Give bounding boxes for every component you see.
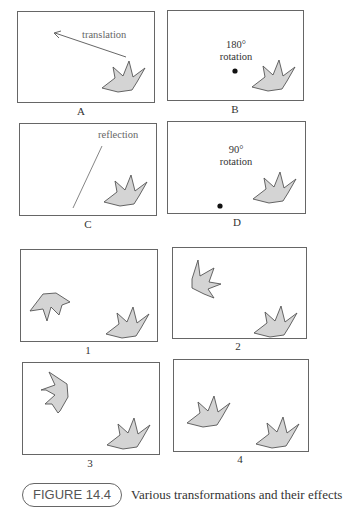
panel-a-frame <box>18 12 155 103</box>
original-shape <box>104 175 147 206</box>
transformations-figure: translation A 180° rotation B reflection… <box>0 0 360 519</box>
original-shape <box>102 61 145 92</box>
original-shape <box>253 172 296 203</box>
original-shape <box>254 306 297 337</box>
translated-shape <box>187 396 230 427</box>
panel-2-label: 2 <box>235 340 241 352</box>
original-shape <box>252 60 295 91</box>
translation-label: translation <box>82 29 127 40</box>
reflection-line <box>73 146 102 208</box>
original-shape <box>106 307 149 338</box>
transformed-shape <box>192 260 221 298</box>
figure-caption: FIGURE 14.4 Various transformations and … <box>22 483 342 507</box>
rotation-center-dot <box>232 68 237 73</box>
panel-3: 3 <box>23 363 160 470</box>
rotation-label: rotation <box>220 51 253 62</box>
panel-4: 4 <box>174 360 309 466</box>
transformed-shape <box>30 293 70 321</box>
panel-a: translation A <box>18 12 155 118</box>
panel-3-label: 3 <box>87 457 93 469</box>
panel-1: 1 <box>21 250 158 357</box>
panel-c: reflection C <box>20 124 157 231</box>
rotation-angle-label: 180° <box>226 39 246 50</box>
reflection-label: reflection <box>98 129 139 140</box>
panel-c-label: C <box>84 218 91 230</box>
panel-a-label: A <box>77 105 85 117</box>
transformed-shape <box>41 372 68 413</box>
rotation-center-dot <box>217 203 222 208</box>
rotation-label: rotation <box>220 156 253 167</box>
panel-b-label: B <box>231 103 238 115</box>
panel-b: 180° rotation B <box>168 11 304 116</box>
original-shape <box>107 418 150 449</box>
caption-text: Various transformations and their effect… <box>131 487 342 503</box>
original-shape <box>256 417 299 448</box>
panel-4-label: 4 <box>237 453 243 465</box>
panel-1-label: 1 <box>85 344 91 356</box>
rotation-angle-label: 90° <box>229 144 244 155</box>
panel-d-frame <box>168 122 306 214</box>
panel-d: 90° rotation D <box>168 122 306 229</box>
panel-d-label: D <box>233 216 241 228</box>
panel-2: 2 <box>173 248 307 353</box>
figure-number-badge: FIGURE 14.4 <box>22 483 122 507</box>
